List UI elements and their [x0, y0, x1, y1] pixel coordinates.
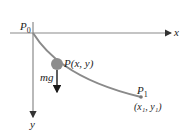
bead-position-label: P(x, y): [63, 57, 94, 70]
bead: [51, 58, 63, 70]
x-axis-label: x: [173, 26, 179, 38]
y-axis-label: y: [29, 118, 35, 130]
diagram-canvas: P0 x y P(x, y) mg P1 (x₁, y₁): [0, 0, 191, 133]
end-point-coords: (x₁, y₁): [134, 101, 162, 113]
force-label: mg: [40, 71, 54, 83]
